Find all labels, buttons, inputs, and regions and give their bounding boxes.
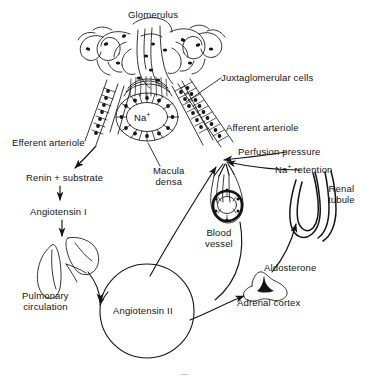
label-adrenal-cortex: Adrenal cortex bbox=[237, 297, 300, 308]
label-renin-substrate: Renin + substrate bbox=[26, 172, 103, 183]
cropped-caption: — bbox=[0, 369, 369, 376]
sodium-retention-suffix: retention bbox=[291, 164, 332, 175]
label-angiotensin-ii: Angiotensin II bbox=[113, 305, 173, 316]
label-aldosterone: Aldosterone bbox=[264, 262, 316, 273]
sodium-retention-text: Na bbox=[275, 164, 287, 175]
label-perfusion-pressure: Perfusion pressure bbox=[238, 146, 320, 157]
label-sodium-retention: Na+ retention bbox=[275, 164, 333, 175]
label-afferent-arteriole: Afferent arteriole bbox=[226, 122, 299, 133]
label-sodium-ion-lumen: Na+ bbox=[134, 112, 150, 123]
sodium-ion-text: Na bbox=[134, 112, 146, 123]
juxtaglomerular-cell-band bbox=[172, 81, 213, 145]
label-renal-tubule: Renal tubule bbox=[328, 183, 355, 205]
label-blood-vessel: Blood vessel bbox=[205, 227, 233, 249]
figure-canvas: Glomerulus Juxtaglomerular cells Afferen… bbox=[0, 0, 369, 376]
label-pulmonary-circulation: Pulmonary circulation bbox=[22, 290, 69, 312]
sodium-ion-charge: + bbox=[146, 111, 150, 118]
label-efferent-arteriole: Efferent arteriole bbox=[12, 137, 85, 148]
blood-vessel-cross-section bbox=[211, 174, 243, 223]
label-glomerulus: Glomerulus bbox=[128, 9, 178, 20]
leader-lines bbox=[148, 78, 221, 166]
label-macula-densa: Macula densa bbox=[153, 165, 185, 187]
label-juxtaglomerular-cells: Juxtaglomerular cells bbox=[221, 72, 313, 83]
label-angiotensin-i: Angiotensin I bbox=[30, 206, 87, 217]
raas-diagram-drawing bbox=[0, 0, 369, 376]
renal-tubule-loop bbox=[290, 171, 336, 241]
efferent-arteriole-vessel bbox=[85, 80, 131, 145]
glomerulus-capillary-tuft bbox=[78, 18, 225, 88]
